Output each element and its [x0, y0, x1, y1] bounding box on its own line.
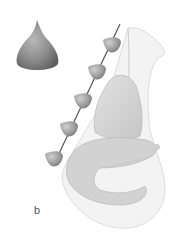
barb-icon [45, 151, 63, 166]
panel-label: b [34, 204, 40, 216]
upper-lateral-cartilage [94, 75, 142, 139]
barb-icon [74, 93, 92, 108]
medical-illustration [0, 0, 185, 239]
barb-icon [103, 37, 121, 52]
barb-icon [88, 64, 106, 79]
barb-detail-icon [17, 20, 59, 70]
barb-icon [60, 121, 78, 136]
